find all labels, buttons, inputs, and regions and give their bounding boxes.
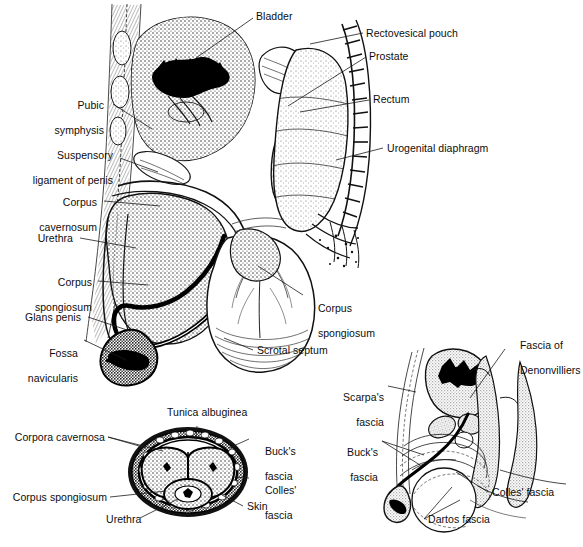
label-line-2: fascia [350,471,378,483]
label-dartos-fascia: Dartos fascia [428,513,490,526]
label-glans-penis: Glans penis [0,311,81,324]
label-skin-xs: Skin [247,500,268,513]
label-bladder: Bladder [256,10,293,23]
label-urethra-main: Urethra [0,232,73,245]
label-line-1: Corpus [63,196,97,208]
label-urethra-xs: Urethra [106,513,141,526]
label-tunica-albuginea: Tunica albuginea [167,406,247,419]
label-scrotal-septum: Scrotal septum [257,344,328,357]
label-fascia-of-denonvilliers: Fascia of Denonvilliers [508,326,581,389]
label-corpus-spongiosum-inner: Corpus spongiosum [306,289,375,352]
label-colles-fascia-fp: Colles' fascia [492,486,554,499]
label-corpora-cavernosa: Corpora cavernosa [0,431,105,444]
label-rectovesical-pouch: Rectovesical pouch [366,27,458,40]
label-corpus-spongiosum-xs: Corpus spongiosum [0,491,107,504]
label-line-2: fascia [265,509,293,521]
label-scarpas-fascia: Scarpa's fascia [326,378,384,441]
label-line-2: cavernosum [39,221,97,233]
label-line-1: Fossa [49,347,78,359]
label-fossa-navicularis: Fossa navicularis [0,334,78,397]
label-line-1: Pubic [77,99,104,111]
label-line-2: navicularis [28,372,78,384]
label-line-1: Suspensory [57,149,113,161]
label-line-1: Colles' [265,484,297,496]
cross-section-artwork [128,427,248,517]
label-urogenital-diaphragm: Urogenital diaphragm [387,142,488,155]
label-line-1: Buck's [347,446,378,458]
label-line-1: Fascia of [520,339,563,351]
label-rectum: Rectum [373,93,409,106]
label-line-1: Corpus [318,302,352,314]
label-line-1: Buck's [265,445,296,457]
label-line-2: symphysis [55,124,104,136]
label-line-1: Scarpa's [343,391,384,403]
label-line-2: fascia [356,416,384,428]
anatomy-figure: Bladder Pubic symphysis Suspensory ligam… [0,0,583,547]
fascial-planes-leaders [382,349,505,519]
label-bucks-fascia-fp: Buck's fascia [326,433,378,496]
label-line-2: spongiosum [318,327,375,339]
cross-section-leaders [108,426,249,518]
label-line-1: Corpus [58,276,92,288]
label-prostate: Prostate [369,50,409,63]
label-line-2: Denonvilliers [520,364,581,376]
